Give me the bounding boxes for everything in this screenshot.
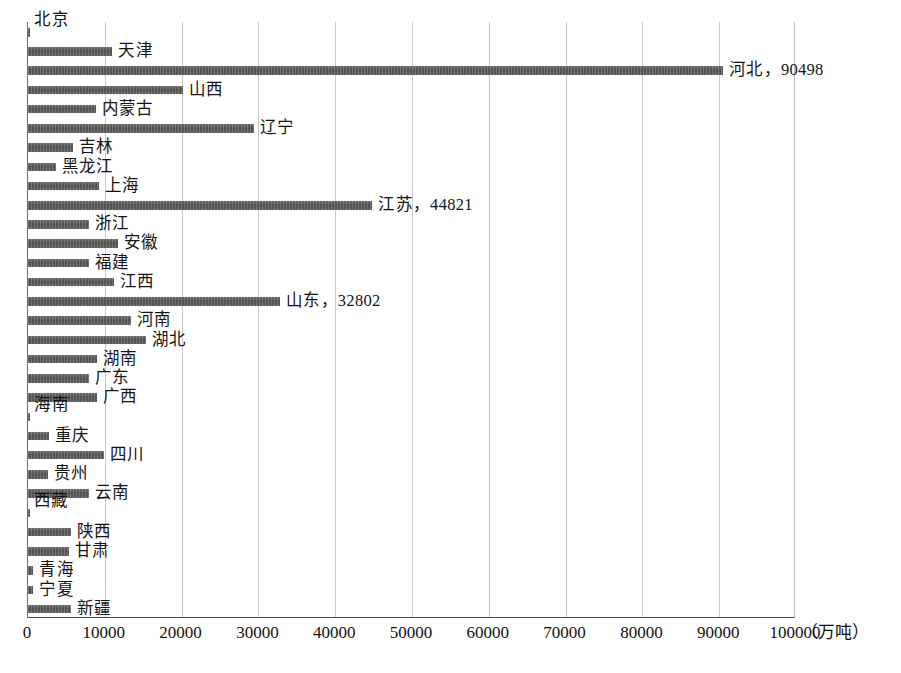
- bar-data-label: 河北，90498: [729, 62, 824, 79]
- horizontal-bar-chart: 北京天津河北，90498山西内蒙古辽宁吉林黑龙江上海江苏，44821浙江安徽福建…: [0, 0, 901, 673]
- bar-row: 新疆: [28, 599, 796, 618]
- x-axis: 0100002000030000400005000060000700008000…: [27, 620, 795, 650]
- bar-data-label: 辽宁: [260, 120, 295, 137]
- bar-data-label: 河南: [137, 312, 172, 329]
- bar-data-label: 宁夏: [39, 582, 74, 599]
- bar-data-label: 贵州: [54, 466, 89, 483]
- bar: [28, 413, 30, 422]
- bar: [28, 259, 89, 268]
- bar-data-label: 安徽: [124, 235, 159, 252]
- bar: [28, 566, 33, 575]
- bar: [28, 432, 49, 441]
- bar: [28, 451, 104, 460]
- bar: [28, 528, 71, 537]
- bar-data-label: 西藏: [34, 493, 69, 510]
- bar: [28, 509, 30, 518]
- bar-data-label: 江苏，44821: [378, 197, 473, 214]
- bar: [28, 124, 254, 133]
- x-tick-label: 40000: [313, 624, 356, 641]
- bar-data-label: 广东: [95, 370, 130, 387]
- bar: [28, 547, 69, 556]
- bar: [28, 66, 723, 75]
- bar-data-label: 广西: [103, 389, 138, 406]
- bar-row: 宁夏: [28, 580, 796, 599]
- bar-row: 上海: [28, 176, 796, 195]
- bar: [28, 86, 183, 95]
- bar-row: 广东: [28, 368, 796, 387]
- bar-row: 海南: [28, 407, 796, 426]
- bar-row: 湖南: [28, 349, 796, 368]
- x-tick-label: 20000: [159, 624, 202, 641]
- bar: [28, 105, 96, 114]
- x-axis-unit-label: （万吨）: [801, 624, 869, 641]
- bar-data-label: 新疆: [77, 601, 112, 618]
- bar-data-label: 江西: [120, 274, 155, 291]
- bar-data-label: 山西: [189, 82, 224, 99]
- bar-data-label: 重庆: [55, 428, 90, 445]
- bar-row: 云南: [28, 483, 796, 502]
- bar: [28, 586, 33, 595]
- bar-data-label: 福建: [95, 255, 130, 272]
- bar: [28, 470, 48, 479]
- bar: [28, 28, 30, 37]
- bar-data-label: 内蒙古: [102, 101, 154, 118]
- bar-row: 天津: [28, 41, 796, 60]
- bar-data-label: 上海: [105, 178, 140, 195]
- bar: [28, 201, 372, 210]
- bar-row: 四川: [28, 445, 796, 464]
- bar-row: 重庆: [28, 426, 796, 445]
- bar-data-label: 云南: [95, 485, 130, 502]
- bar-row: 西藏: [28, 503, 796, 522]
- bar-row: 河南: [28, 310, 796, 329]
- plot-area: 北京天津河北，90498山西内蒙古辽宁吉林黑龙江上海江苏，44821浙江安徽福建…: [27, 22, 795, 618]
- bar-row: 吉林: [28, 137, 796, 156]
- bar: [28, 163, 56, 172]
- bar-data-label: 海南: [34, 397, 69, 414]
- bar-row: 福建: [28, 253, 796, 272]
- bar-data-label: 吉林: [79, 139, 114, 156]
- bar: [28, 143, 73, 152]
- bar: [28, 278, 114, 287]
- bar-row: 内蒙古: [28, 99, 796, 118]
- bar-data-label: 黑龙江: [62, 159, 114, 176]
- bar-row: 陕西: [28, 522, 796, 541]
- bar-series: 北京天津河北，90498山西内蒙古辽宁吉林黑龙江上海江苏，44821浙江安徽福建…: [28, 22, 794, 617]
- bar-row: 甘肃: [28, 541, 796, 560]
- x-tick-label: 70000: [543, 624, 586, 641]
- bar-data-label: 湖北: [152, 332, 187, 349]
- bar-row: 贵州: [28, 464, 796, 483]
- bar: [28, 374, 89, 383]
- bar-data-label: 天津: [118, 43, 153, 60]
- bar-row: 浙江: [28, 214, 796, 233]
- x-tick-label: 80000: [620, 624, 663, 641]
- x-tick-label: 10000: [83, 624, 126, 641]
- x-tick-label: 30000: [236, 624, 279, 641]
- bar-row: 江西: [28, 272, 796, 291]
- x-tick-label: 60000: [467, 624, 510, 641]
- bar-row: 北京: [28, 22, 796, 41]
- bar: [28, 297, 280, 306]
- bar-data-label: 浙江: [95, 216, 130, 233]
- bar: [28, 239, 118, 248]
- bar-data-label: 湖南: [103, 351, 138, 368]
- x-tick-label: 0: [23, 624, 32, 641]
- bar-row: 河北，90498: [28, 60, 796, 79]
- bar: [28, 605, 71, 614]
- bar-data-label: 甘肃: [75, 543, 110, 560]
- bar-row: 辽宁: [28, 118, 796, 137]
- bar-data-label: 北京: [34, 12, 69, 29]
- x-tick-label: 90000: [697, 624, 740, 641]
- bar: [28, 316, 131, 325]
- bar: [28, 336, 146, 345]
- x-tick-label: 50000: [390, 624, 433, 641]
- bar: [28, 355, 97, 364]
- bar-row: 山东，32802: [28, 291, 796, 310]
- bar-row: 黑龙江: [28, 157, 796, 176]
- bar-row: 江苏，44821: [28, 195, 796, 214]
- bar: [28, 182, 99, 191]
- bar-row: 山西: [28, 80, 796, 99]
- bar-data-label: 四川: [110, 447, 145, 464]
- bar-data-label: 青海: [39, 562, 74, 579]
- bar-data-label: 山东，32802: [286, 293, 381, 310]
- bar-row: 青海: [28, 560, 796, 579]
